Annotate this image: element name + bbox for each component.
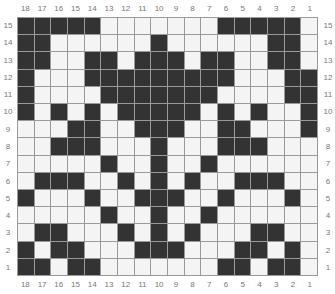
- filled-cell: [218, 70, 234, 86]
- empty-cell: [168, 259, 184, 275]
- empty-cell: [201, 35, 217, 51]
- filled-cell: [151, 87, 167, 103]
- empty-cell: [18, 173, 34, 189]
- empty-cell: [301, 224, 317, 240]
- empty-cell: [68, 156, 84, 172]
- filled-cell: [135, 70, 151, 86]
- filled-cell: [151, 70, 167, 86]
- empty-cell: [301, 35, 317, 51]
- empty-cell: [218, 207, 234, 223]
- empty-cell: [235, 52, 251, 68]
- filled-cell: [118, 70, 134, 86]
- empty-cell: [235, 224, 251, 240]
- filled-cell: [251, 242, 267, 258]
- filled-cell: [51, 224, 67, 240]
- empty-cell: [135, 173, 151, 189]
- empty-cell: [135, 18, 151, 34]
- empty-cell: [51, 121, 67, 137]
- column-label: 13: [101, 280, 118, 289]
- empty-cell: [101, 173, 117, 189]
- empty-cell: [218, 156, 234, 172]
- filled-cell: [51, 173, 67, 189]
- filled-cell: [251, 173, 267, 189]
- empty-cell: [101, 242, 117, 258]
- empty-cell: [268, 121, 284, 137]
- row-label: 14: [0, 38, 16, 47]
- filled-cell: [135, 87, 151, 103]
- column-label: 7: [201, 4, 218, 13]
- row-label: 10: [320, 107, 335, 116]
- empty-cell: [268, 104, 284, 120]
- empty-cell: [235, 190, 251, 206]
- column-label: 8: [184, 280, 201, 289]
- filled-cell: [185, 173, 201, 189]
- empty-cell: [51, 156, 67, 172]
- row-label: 1: [320, 263, 335, 272]
- empty-cell: [168, 207, 184, 223]
- row-label: 4: [320, 211, 335, 220]
- empty-cell: [268, 242, 284, 258]
- empty-cell: [218, 224, 234, 240]
- column-label: 4: [251, 4, 268, 13]
- row-label: 12: [0, 73, 16, 82]
- empty-cell: [168, 18, 184, 34]
- filled-cell: [151, 35, 167, 51]
- row-label: 10: [0, 107, 16, 116]
- empty-cell: [251, 156, 267, 172]
- filled-cell: [285, 242, 301, 258]
- filled-cell: [101, 52, 117, 68]
- filled-cell: [235, 259, 251, 275]
- filled-cell: [18, 35, 34, 51]
- filled-cell: [168, 190, 184, 206]
- empty-cell: [301, 138, 317, 154]
- row-label: 13: [320, 56, 335, 65]
- empty-cell: [285, 138, 301, 154]
- empty-cell: [118, 121, 134, 137]
- column-label: 6: [218, 4, 235, 13]
- row-label: 5: [0, 194, 16, 203]
- column-label: 6: [218, 280, 235, 289]
- empty-cell: [35, 70, 51, 86]
- empty-cell: [101, 138, 117, 154]
- filled-cell: [201, 156, 217, 172]
- filled-cell: [301, 104, 317, 120]
- filled-cell: [101, 207, 117, 223]
- empty-cell: [185, 207, 201, 223]
- empty-cell: [268, 156, 284, 172]
- filled-cell: [285, 87, 301, 103]
- filled-cell: [118, 87, 134, 103]
- row-label: 5: [320, 194, 335, 203]
- empty-cell: [51, 87, 67, 103]
- filled-cell: [151, 242, 167, 258]
- empty-cell: [118, 18, 134, 34]
- empty-cell: [301, 259, 317, 275]
- filled-cell: [68, 121, 84, 137]
- filled-cell: [168, 70, 184, 86]
- column-label: 16: [50, 4, 67, 13]
- filled-cell: [35, 52, 51, 68]
- filled-cell: [18, 190, 34, 206]
- empty-cell: [268, 70, 284, 86]
- empty-cell: [251, 52, 267, 68]
- empty-cell: [101, 121, 117, 137]
- empty-cell: [35, 121, 51, 137]
- empty-cell: [135, 156, 151, 172]
- empty-cell: [101, 190, 117, 206]
- column-label: 11: [134, 280, 151, 289]
- empty-cell: [201, 18, 217, 34]
- filled-cell: [285, 190, 301, 206]
- filled-cell: [285, 18, 301, 34]
- filled-cell: [235, 242, 251, 258]
- row-label: 9: [320, 125, 335, 134]
- empty-cell: [251, 35, 267, 51]
- empty-cell: [85, 173, 101, 189]
- row-label: 8: [320, 142, 335, 151]
- empty-cell: [51, 259, 67, 275]
- column-label: 18: [17, 4, 34, 13]
- empty-cell: [168, 173, 184, 189]
- empty-cell: [118, 207, 134, 223]
- filled-cell: [35, 18, 51, 34]
- filled-cell: [251, 224, 267, 240]
- column-labels-bottom: 181716151413121110987654321: [17, 280, 318, 289]
- filled-cell: [268, 52, 284, 68]
